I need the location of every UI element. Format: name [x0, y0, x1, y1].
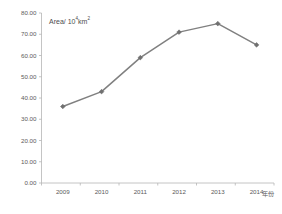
y-axis-tick-label: 0.00: [24, 179, 37, 186]
y-axis-tick-labels: 0.0010.0020.0030.0040.0050.0060.0070.008…: [21, 9, 37, 186]
x-axis-tick-label: 2009: [56, 188, 70, 195]
y-axis-unit-base: Area/ 10: [49, 18, 76, 25]
y-axis-tick-label: 70.00: [21, 30, 37, 37]
line-chart: 0.0010.0020.0030.0040.0050.0060.0070.008…: [0, 0, 282, 214]
x-axis-tick-label: 2013: [211, 188, 225, 195]
x-axis-tick-label: 2010: [95, 188, 109, 195]
y-axis-tick-label: 10.00: [21, 158, 37, 165]
chart-canvas: 0.0010.0020.0030.0040.0050.0060.0070.008…: [0, 0, 282, 214]
y-axis-unit-suffix: km: [78, 18, 88, 25]
x-axis-tick-label: 2012: [172, 188, 186, 195]
y-axis-tick-label: 50.00: [21, 73, 37, 80]
chart-background: [0, 0, 282, 214]
y-axis-tick-label: 60.00: [21, 52, 37, 59]
y-axis-tick-label: 80.00: [21, 9, 37, 16]
y-axis-tick-label: 20.00: [21, 137, 37, 144]
x-axis-tick-label: 2011: [134, 188, 148, 195]
y-axis-unit-suffix-exponent: 2: [87, 15, 90, 20]
x-axis-title: 年份: [262, 190, 275, 198]
y-axis-tick-label: 40.00: [21, 94, 37, 101]
y-axis-tick-label: 30.00: [21, 115, 37, 122]
